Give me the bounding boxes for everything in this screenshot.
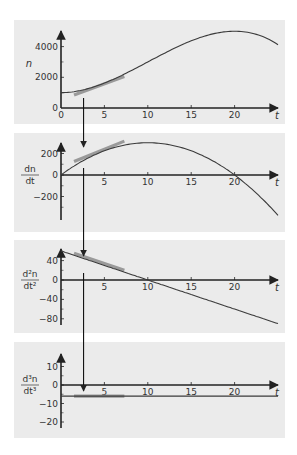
y-axis-label-denominator: dt³: [24, 386, 37, 396]
y-tick-label: 2000: [35, 72, 58, 82]
y-axis-label-denominator: dt²: [24, 281, 37, 291]
panel-1: 05101520t020004000n: [14, 20, 285, 124]
x-tick-label: 15: [185, 282, 196, 292]
x-tick-label: 0: [58, 110, 64, 120]
y-tick-label: −200: [33, 192, 58, 202]
x-tick-label: 10: [142, 282, 154, 292]
y-tick-label: −40: [39, 294, 58, 304]
y-tick-label: 0: [52, 103, 58, 113]
x-tick-label: 10: [142, 387, 154, 397]
panel-4: 5101520t−20−10010d³ndt³: [14, 342, 285, 438]
y-tick-label: 0: [52, 275, 58, 285]
x-tick-label: 5: [102, 282, 108, 292]
y-tick-label: 200: [41, 149, 58, 159]
x-tick-label: 15: [185, 177, 196, 187]
panel-3: 5101520t−80−40040d²ndt²: [14, 240, 285, 333]
y-tick-label: 10: [47, 362, 59, 372]
y-tick-label: 4000: [35, 42, 58, 52]
x-tick-label: 20: [229, 387, 241, 397]
x-tick-label: 20: [229, 110, 241, 120]
y-tick-label: 0: [52, 380, 58, 390]
y-tick-label: −80: [39, 314, 58, 324]
x-tick-label: 20: [229, 282, 241, 292]
x-tick-label: 5: [102, 110, 108, 120]
y-axis-label-numerator: d²n: [22, 269, 37, 279]
panel-2: 5101520t−2000200dndt: [14, 133, 285, 232]
y-axis-label-numerator: dn: [24, 164, 35, 174]
x-tick-label: 10: [142, 110, 154, 120]
y-tick-label: −10: [39, 399, 58, 409]
x-tick-label: 15: [185, 110, 196, 120]
y-tick-label: 40: [47, 256, 59, 266]
x-tick-label: 15: [185, 387, 196, 397]
y-tick-label: −20: [39, 417, 58, 427]
y-axis-label-numerator: d³n: [22, 374, 37, 384]
x-tick-label: 5: [102, 177, 108, 187]
derivatives-figure: 05101520t020004000n5101520t−2000200dndt5…: [0, 0, 297, 455]
y-tick-label: 0: [52, 170, 58, 180]
y-axis-label: n: [26, 58, 32, 69]
y-axis-label-denominator: dt: [25, 176, 35, 186]
x-tick-label: 10: [142, 177, 154, 187]
